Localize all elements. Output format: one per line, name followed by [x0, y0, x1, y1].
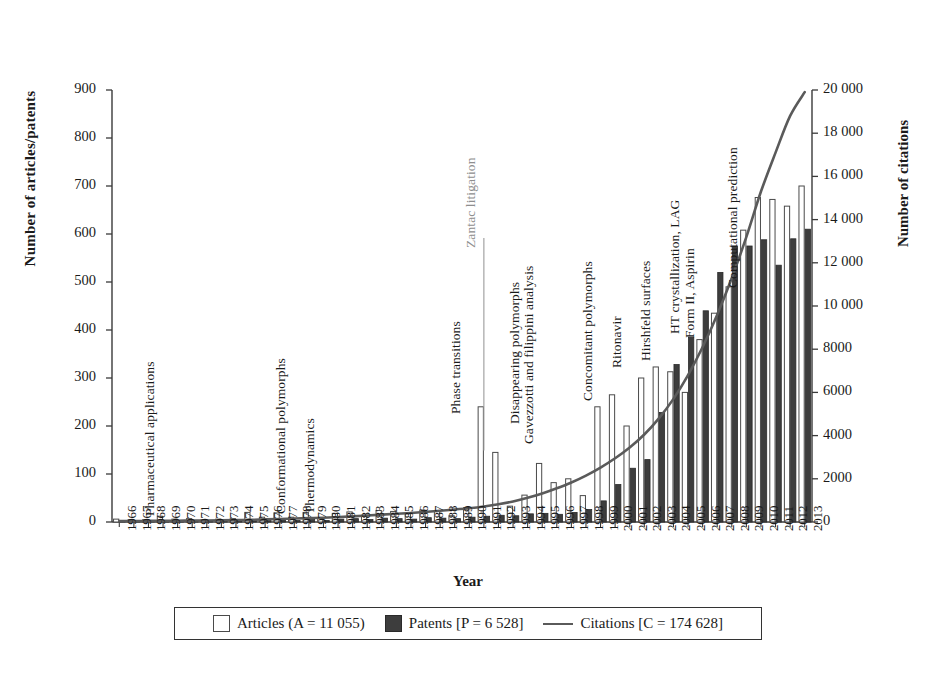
x-tick-1998: 1998	[591, 506, 607, 531]
x-tick-2012: 2012	[795, 506, 811, 531]
articles-swatch-icon	[213, 615, 230, 632]
bar-articles-2006	[697, 340, 702, 522]
x-tick-1997: 1997	[576, 506, 592, 531]
annotation-thermodynamics: Thermodynamics	[302, 418, 318, 514]
bar-articles-2003	[653, 367, 658, 522]
y-tick-left-500: 500	[36, 272, 96, 289]
x-tick-1986: 1986	[416, 506, 432, 531]
bar-articles-2008	[726, 287, 731, 522]
x-tick-2007: 2007	[722, 506, 738, 531]
x-tick-2000: 2000	[620, 506, 636, 531]
legend-item-patents[interactable]: Patents [P = 6 528]	[385, 615, 524, 632]
y-tick-left-700: 700	[36, 176, 96, 193]
annotation-concomitant-polymorphs: Concomitant polymorphs	[580, 261, 596, 401]
y-tick-left-100: 100	[36, 464, 96, 481]
legend-label-patents: Patents [P = 6 528]	[409, 615, 524, 632]
x-tick-1974: 1974	[241, 506, 257, 531]
y-tick-left-800: 800	[36, 128, 96, 145]
bar-articles-2012	[784, 206, 789, 522]
annotation-ritonavir: Ritonavir	[609, 316, 625, 368]
bar-articles-2011	[770, 199, 775, 522]
bar-patents-2013	[805, 229, 810, 522]
bar-patents-2009	[747, 246, 752, 522]
x-tick-1971: 1971	[197, 506, 213, 531]
y-tick-right-16000: 16 000	[823, 166, 903, 183]
annotation-pharmaceutical-applications: Pharmaceutical applications	[142, 361, 158, 516]
y-tick-right-0: 0	[823, 512, 903, 529]
annotation-hirshfeld-surfaces: Hirshfeld surfaces	[638, 261, 654, 361]
bar-articles-2010	[755, 198, 760, 522]
x-tick-2002: 2002	[649, 506, 665, 531]
y-tick-left-200: 200	[36, 416, 96, 433]
y-tick-right-8000: 8000	[823, 339, 903, 356]
bar-articles-1991	[478, 407, 483, 522]
annotation-form-ii-aspirin: Form II, Aspirin	[682, 248, 698, 338]
legend-item-citations[interactable]: Citations [C = 174 628]	[543, 615, 723, 632]
bar-articles-2005	[682, 392, 687, 522]
x-tick-1995: 1995	[547, 506, 563, 531]
y-tick-right-18000: 18 000	[823, 123, 903, 140]
x-tick-1973: 1973	[226, 506, 242, 531]
bar-patents-2010	[761, 240, 766, 522]
bar-articles-1966	[114, 519, 119, 522]
x-tick-2010: 2010	[766, 506, 782, 531]
x-tick-2005: 2005	[693, 506, 709, 531]
bar-articles-1999	[595, 407, 600, 522]
annotation-computational-prediction: Computational prediction	[725, 147, 741, 288]
x-tick-1985: 1985	[401, 506, 417, 531]
y-tick-left-600: 600	[36, 224, 96, 241]
y-tick-left-400: 400	[36, 320, 96, 337]
y-tick-left-0: 0	[36, 512, 96, 529]
y-tick-left-300: 300	[36, 368, 96, 385]
annotation-ht-crystallization-lag: HT crystallization, LAG	[667, 200, 683, 334]
x-tick-1983: 1983	[372, 506, 388, 531]
x-tick-1969: 1969	[168, 506, 184, 531]
bar-articles-2007	[711, 313, 716, 522]
legend-label-articles: Articles (A = 11 055)	[237, 615, 365, 632]
x-tick-2009: 2009	[751, 506, 767, 531]
patents-swatch-icon	[385, 615, 402, 632]
plot-area	[0, 0, 936, 673]
bar-patents-2004	[674, 365, 679, 522]
x-tick-1988: 1988	[445, 506, 461, 531]
annotation-zantac-litigation: Zantac litigation	[463, 157, 479, 248]
y-tick-right-2000: 2000	[823, 469, 903, 486]
bar-patents-2011	[776, 265, 781, 522]
legend-item-articles[interactable]: Articles (A = 11 055)	[213, 615, 365, 632]
bar-articles-2013	[799, 186, 804, 522]
polymorphism-publication-chart: Number of articles/patents Number of cit…	[0, 0, 936, 673]
y-tick-left-900: 900	[36, 80, 96, 97]
bar-articles-2002	[639, 378, 644, 522]
y-tick-right-12000: 12 000	[823, 253, 903, 270]
y-tick-right-20000: 20 000	[823, 80, 903, 97]
citations-line-icon	[543, 623, 573, 625]
bar-patents-2012	[791, 239, 796, 522]
x-tick-1993: 1993	[518, 506, 534, 531]
y-tick-right-14000: 14 000	[823, 210, 903, 227]
y-tick-right-6000: 6000	[823, 382, 903, 399]
bar-articles-2004	[668, 372, 673, 522]
legend-label-citations: Citations [C = 174 628]	[580, 615, 723, 632]
y-tick-right-10000: 10 000	[823, 296, 903, 313]
chart-legend: Articles (A = 11 055) Patents [P = 6 528…	[174, 607, 762, 640]
y-tick-right-4000: 4000	[823, 426, 903, 443]
annotation-gavezzotti-and-filippini-analysis: Gavezzotti and filippini analysis	[521, 266, 537, 444]
bar-articles-2009	[741, 230, 746, 522]
annotation-phase-transitions: Phase transitions	[448, 321, 464, 414]
x-tick-2013: 2013	[810, 506, 826, 531]
x-tick-1981: 1981	[343, 506, 359, 531]
x-tick-1966: 1966	[124, 506, 140, 531]
annotation-conformational-polymorphs: Conformational polymorphs	[273, 358, 289, 514]
x-tick-1990: 1990	[474, 506, 490, 531]
